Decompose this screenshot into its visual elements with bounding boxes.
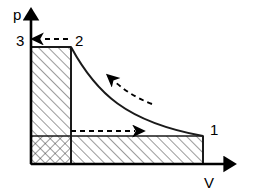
pv-diagram-figure: p V 3 2 1	[0, 0, 255, 196]
state-label-1: 1	[210, 121, 218, 138]
state-label-2: 2	[75, 32, 83, 49]
state-label-3: 3	[16, 32, 24, 49]
work-area-cross-hatched	[31, 136, 71, 164]
work-area-lower-band	[71, 136, 203, 164]
volume-axis-label: V	[204, 174, 214, 191]
hatched-regions	[31, 47, 203, 164]
process-curve-2-to-1	[71, 47, 203, 136]
direction-arrow-1-to-2	[114, 81, 152, 104]
pv-diagram-canvas: p V 3 2 1	[0, 0, 255, 196]
work-area-left-column	[31, 47, 71, 136]
pressure-axis-label: p	[13, 6, 21, 23]
